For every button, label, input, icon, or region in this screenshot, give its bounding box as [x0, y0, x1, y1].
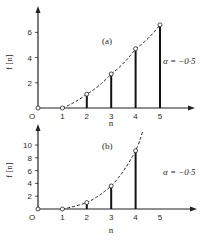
- y-tick-label: 4: [28, 179, 33, 188]
- panel-b: 246810 O12345 (b) α = −0·5 n f [n]: [4, 124, 197, 235]
- data-point: [134, 47, 138, 51]
- x-axis-label-a: n: [109, 118, 114, 128]
- x-tick-label: O: [29, 213, 35, 222]
- y-ticks-a: 246: [28, 28, 38, 87]
- y-axis-label-a: f [n]: [4, 54, 14, 70]
- y-axis-arrow-icon: [36, 124, 41, 131]
- data-point: [109, 72, 113, 76]
- data-point: [60, 207, 64, 211]
- x-tick-label: 1: [60, 213, 65, 222]
- y-tick-label: 4: [28, 54, 33, 63]
- y-ticks-b: 246810: [23, 141, 38, 201]
- data-point: [109, 184, 113, 188]
- x-tick-label: 4: [133, 213, 138, 222]
- x-ticks-a: O12345: [29, 112, 163, 121]
- y-tick-label: 2: [28, 192, 33, 201]
- bars-b: [36, 130, 143, 211]
- x-tick-label: 2: [85, 213, 90, 222]
- y-tick-label: 2: [28, 79, 33, 88]
- x-tick-label: 5: [158, 213, 163, 222]
- panel-label-b: (b): [102, 141, 113, 151]
- data-point: [60, 106, 64, 110]
- y-tick-label: 6: [28, 28, 33, 37]
- alpha-annotation-a: α = −0·5: [163, 56, 196, 66]
- data-point: [36, 106, 40, 110]
- x-ticks-b: O12345: [29, 213, 163, 222]
- data-point: [158, 23, 162, 27]
- panel-label-a: (a): [102, 36, 112, 46]
- data-point: [36, 207, 40, 211]
- data-point: [85, 201, 89, 205]
- y-axis-label-b: f [n]: [4, 162, 14, 178]
- x-axis-arrow-icon: [190, 207, 197, 212]
- x-axis-arrow-icon: [188, 106, 195, 111]
- data-point: [134, 149, 138, 153]
- x-tick-label: 4: [133, 112, 138, 121]
- x-tick-label: 3: [109, 213, 114, 222]
- y-tick-label: 10: [23, 141, 32, 150]
- bars-a: [36, 23, 162, 110]
- y-tick-label: 6: [28, 167, 33, 176]
- chart-figure: 246 O12345 (a) α = −0·5 n f [n] 246810 O…: [0, 0, 210, 246]
- x-axis-label-b: n: [109, 225, 114, 235]
- x-tick-label: 5: [158, 112, 163, 121]
- x-tick-label: 1: [60, 112, 65, 121]
- y-axis-arrow-icon: [36, 6, 41, 13]
- panel-a: 246 O12345 (a) α = −0·5 n f [n]: [4, 6, 196, 128]
- x-tick-label: O: [29, 112, 35, 121]
- data-point: [85, 92, 89, 96]
- y-tick-label: 8: [28, 154, 33, 163]
- alpha-annotation-b: α = −0·5: [163, 167, 196, 177]
- x-tick-label: 2: [85, 112, 90, 121]
